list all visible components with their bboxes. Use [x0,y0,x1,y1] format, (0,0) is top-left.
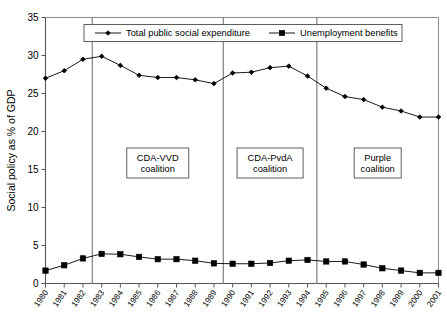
data-point [137,73,142,78]
data-point [267,260,272,265]
y-tick-label-25: 25 [27,88,39,99]
x-tick-label-1983: 1983 [88,288,106,308]
x-tick-label-1995: 1995 [313,288,331,308]
data-point [62,263,67,268]
data-point [249,70,254,75]
data-point [436,270,441,275]
y-tick-label-30: 30 [27,50,39,61]
data-point [417,270,422,275]
data-point [43,76,48,81]
x-tick-label-2001: 2001 [425,288,443,308]
data-point [324,86,329,91]
data-point [342,259,347,264]
data-point [118,63,123,68]
x-tick-label-1987: 1987 [163,288,181,308]
data-point [155,75,160,80]
x-tick-label-1990: 1990 [219,288,237,308]
annotation-line1: Purple [364,153,391,163]
y-tick-label-15: 15 [27,164,39,175]
data-point [212,81,217,86]
data-point [136,254,141,259]
y-axis: 05101520253035 [27,12,45,289]
annotation-cda-pvda: CDA-PvdAcoalition [237,148,303,178]
y-tick-label-10: 10 [27,202,39,213]
data-point [380,266,385,271]
data-point [417,115,422,120]
data-point [361,97,366,102]
data-point [174,256,179,261]
data-point [230,261,235,266]
data-point [268,65,273,70]
data-point [193,78,198,83]
data-point [211,261,216,266]
x-tick-label-1994: 1994 [294,288,312,308]
x-tick-label-1996: 1996 [332,288,350,308]
line-chart: 05101520253035 1980198119821983198419851… [0,0,447,322]
annotation-cda-vvd: CDA-VVDcoalition [127,148,189,178]
data-point [399,109,404,114]
chart-container: 05101520253035 1980198119821983198419851… [0,0,447,322]
annotation-line2: coalition [253,164,287,174]
data-point [398,268,403,273]
x-tick-label-1991: 1991 [238,288,256,308]
annotation-line1: CDA-VVD [137,153,179,163]
y-tick-label-0: 0 [33,278,39,289]
chart-legend: Total public social expenditureUnemploym… [84,25,402,42]
y-tick-label-35: 35 [27,12,39,23]
y-axis-title-text: Social policy as % of GDP [5,90,17,212]
legend-label-1: Unemployment benefits [300,28,398,38]
annotation-boxes: CDA-VVDcoalitionCDA-PvdAcoalitionPurplec… [127,148,401,178]
data-point [43,268,48,273]
series-line [46,56,439,117]
data-point [174,75,179,80]
legend-label-0: Total public social expenditure [126,28,250,38]
data-point [249,261,254,266]
annotation-line2: coalition [141,164,175,174]
annotation-line1: CDA-PvdA [248,153,294,163]
y-axis-title: Social policy as % of GDP [5,90,17,212]
x-tick-label-1985: 1985 [126,288,144,308]
data-point [99,251,104,256]
x-tick-label-1980: 1980 [32,288,50,308]
data-point [62,68,67,73]
x-tick-label-1986: 1986 [145,288,163,308]
legend-marker-square [279,30,284,35]
data-point [436,115,441,120]
series-total-public-social-expenditure [43,54,441,119]
data-point [305,257,310,262]
data-point [155,256,160,261]
y-tick-label-20: 20 [27,126,39,137]
x-tick-label-2000: 2000 [407,288,425,308]
data-point [99,54,104,59]
data-point [80,256,85,261]
data-point [193,258,198,263]
data-point [343,94,348,99]
x-axis: 1980198119821983198419851986198719881989… [32,284,443,309]
x-tick-label-1997: 1997 [350,288,368,308]
annotation-line2: coalition [361,164,395,174]
data-point [286,258,291,263]
x-tick-label-1981: 1981 [51,288,69,308]
x-tick-label-1984: 1984 [107,288,125,308]
x-tick-label-1998: 1998 [369,288,387,308]
series-unemployment-benefits [43,251,441,275]
x-tick-label-1988: 1988 [182,288,200,308]
data-point [81,57,86,62]
data-point [380,105,385,110]
data-point [286,64,291,69]
data-point [230,71,235,76]
y-tick-label-5: 5 [33,240,39,251]
x-tick-label-1982: 1982 [70,288,88,308]
annotation-purple: Purplecoalition [354,148,401,178]
x-tick-label-1999: 1999 [388,288,406,308]
x-tick-label-1992: 1992 [257,288,275,308]
data-point [118,252,123,257]
x-tick-label-1993: 1993 [276,288,294,308]
data-point [305,74,310,79]
x-tick-label-1989: 1989 [201,288,219,308]
data-point [361,262,366,267]
data-point [324,259,329,264]
